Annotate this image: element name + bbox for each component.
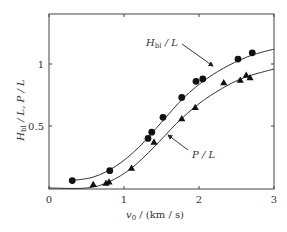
hbl-arrow [182, 44, 213, 66]
circle-marker [199, 75, 206, 82]
circle-marker [145, 135, 152, 142]
data-points [69, 49, 256, 186]
circle-marker [193, 78, 200, 85]
triangle-marker [220, 79, 227, 85]
x-tick-label: 2 [196, 194, 202, 205]
y-tick-label: 1 [38, 59, 44, 70]
chart: 01230.51 Hbl / L P / L v0 / (km / s) Hbl… [0, 0, 287, 232]
circle-marker [178, 94, 185, 101]
y-tick-label: 0.5 [28, 121, 44, 132]
circle-marker [160, 114, 167, 121]
circle-marker [148, 129, 155, 136]
y-axis-label: Hbl / L, P / L [15, 79, 28, 142]
hbl-label: Hbl / L [145, 37, 178, 50]
x-tick-label: 3 [271, 194, 277, 205]
triangle-marker [90, 181, 97, 187]
fit-curve [72, 49, 275, 180]
x-tick-label: 1 [121, 194, 127, 205]
circle-marker [249, 49, 256, 56]
x-tick-label: 0 [46, 194, 52, 205]
x-axis-label: v0 / (km / s) [126, 209, 184, 222]
circle-marker [235, 56, 242, 63]
fit-curve [49, 69, 274, 188]
circle-marker [69, 177, 76, 184]
pl-label: P / L [191, 149, 215, 160]
circle-marker [106, 167, 113, 174]
triangle-marker [237, 77, 244, 83]
pl-arrow [168, 135, 188, 150]
triangle-marker [150, 139, 157, 145]
